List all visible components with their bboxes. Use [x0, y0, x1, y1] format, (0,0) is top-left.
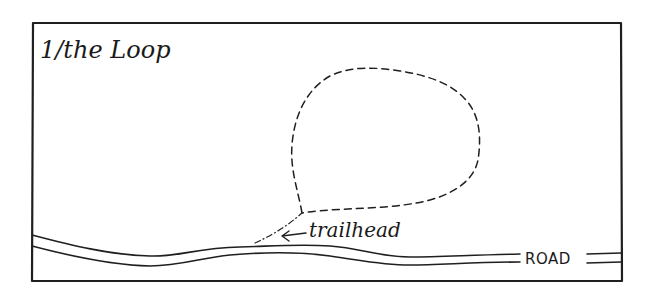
trailhead-label: trailhead — [309, 218, 401, 242]
road-label: ROAD — [525, 250, 571, 268]
diagram-title: 1/the Loop — [40, 36, 171, 64]
trail-spur — [255, 213, 302, 243]
trail-map-diagram: 1/the Loop trailhead ROAD — [0, 0, 645, 305]
trailhead-arrow-icon — [282, 231, 306, 241]
loop-trail — [292, 68, 480, 213]
